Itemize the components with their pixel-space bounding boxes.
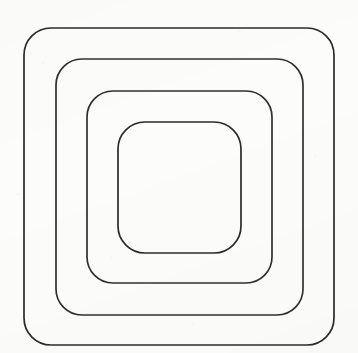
rounded-square-third xyxy=(87,91,272,283)
rounded-square-second xyxy=(56,59,303,315)
drawing-canvas xyxy=(0,0,358,353)
rounded-square-inner xyxy=(118,122,241,253)
rounded-square-outer xyxy=(24,28,334,345)
concentric-rounded-squares-figure xyxy=(0,0,358,353)
